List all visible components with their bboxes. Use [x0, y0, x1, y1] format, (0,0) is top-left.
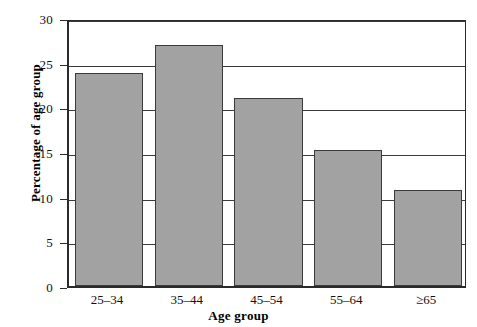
y-axis-tick-mark	[60, 109, 67, 110]
y-axis-tick-label: 15	[11, 146, 53, 162]
y-axis-tick-label: 20	[11, 101, 53, 117]
x-axis-tick-label: 35–44	[147, 292, 227, 308]
gridline	[69, 21, 465, 22]
bar	[75, 73, 143, 286]
x-axis-title: Age group	[0, 308, 477, 324]
x-axis-tick-label: 25–34	[67, 292, 147, 308]
x-axis-tick-label: 45–54	[227, 292, 307, 308]
chart-figure: Percentage of age group 051015202530 25–…	[0, 0, 477, 327]
bar	[314, 150, 382, 286]
y-axis-tick-mark	[60, 20, 67, 21]
x-axis-tick-label: 55–64	[306, 292, 386, 308]
y-axis-tick-label: 25	[11, 57, 53, 73]
y-axis-tick-mark	[60, 199, 67, 200]
y-axis-tick-mark	[60, 288, 67, 289]
plot-area	[67, 20, 466, 288]
y-axis-tick-mark	[60, 154, 67, 155]
y-axis-tick-mark	[60, 65, 67, 66]
bar	[234, 98, 302, 286]
y-axis-tick-label: 0	[11, 280, 53, 296]
bar	[394, 190, 462, 286]
x-axis-tick-label: ≥65	[386, 292, 466, 308]
bar	[155, 45, 223, 286]
y-axis-tick-label: 10	[11, 191, 53, 207]
y-axis-tick-label: 5	[11, 235, 53, 251]
y-axis-tick-mark	[60, 243, 67, 244]
y-axis-tick-label: 30	[11, 12, 53, 28]
gridline	[69, 66, 465, 67]
